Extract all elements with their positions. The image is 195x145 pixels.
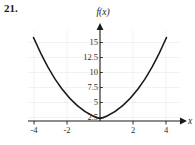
x-axis-label: x [187,116,193,126]
y-tick-labels: 15 12.5 10 7.5 5 2.5 [83,37,98,122]
x-tick-label: 4 [164,125,169,135]
x-tick-label: 2 [131,125,135,135]
x-tick-labels: -4 -2 2 4 [30,125,168,135]
plot-area: 15 12.5 10 7.5 5 2.5 -4 -2 2 4 f(x) x [0,0,195,145]
y-tick-label: 7.5 [87,82,98,92]
y-axis-label: f(x) [96,7,109,18]
y-tick-label: 12.5 [83,52,98,62]
figure-container: 21. [0,0,195,145]
y-tick-label: 2.5 [87,112,98,122]
y-tick-label: 15 [90,37,99,47]
y-tick-label: 5 [94,97,98,107]
x-axis [28,118,187,125]
y-tick-label: 10 [90,67,99,77]
x-tick-label: -4 [30,125,38,135]
grid-lines [28,30,180,121]
x-tick-label: -2 [63,125,70,135]
